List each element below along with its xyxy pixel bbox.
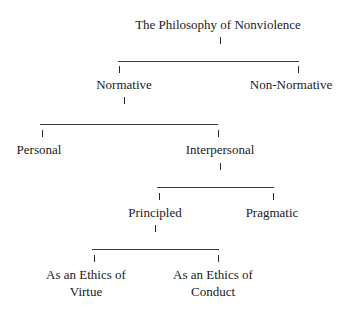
connector-tick <box>119 66 120 73</box>
node-non-normative: Non-Normative <box>250 76 332 93</box>
node-ethics-of-virtue: As an Ethics of Virtue <box>46 266 126 300</box>
connector-tick <box>155 225 156 232</box>
connector-tick <box>159 193 160 200</box>
connector-tick <box>220 163 221 170</box>
connector-tick <box>124 97 125 104</box>
root-node-title: The Philosophy of Nonviolence <box>135 16 301 33</box>
node-ethics-of-virtue-line2: Virtue <box>46 283 126 300</box>
connector-tick <box>42 130 43 137</box>
connector-tick <box>273 193 274 200</box>
node-principled: Principled <box>128 204 181 221</box>
node-ethics-of-conduct: As an Ethics of Conduct <box>173 266 253 300</box>
branch-line-principled <box>92 249 219 250</box>
node-personal: Personal <box>17 141 62 158</box>
node-interpersonal: Interpersonal <box>186 141 255 158</box>
branch-line-normative <box>40 124 218 125</box>
branch-line-root <box>118 61 299 62</box>
node-ethics-of-conduct-line1: As an Ethics of <box>173 266 253 283</box>
node-pragmatic: Pragmatic <box>246 204 299 221</box>
connector-tick <box>220 37 221 44</box>
branch-line-interpersonal <box>157 187 274 188</box>
connector-tick <box>218 255 219 262</box>
connector-tick <box>218 130 219 137</box>
node-ethics-of-conduct-line2: Conduct <box>173 283 253 300</box>
tree-diagram: The Philosophy of Nonviolence Normative … <box>0 0 340 316</box>
node-normative: Normative <box>96 76 152 93</box>
connector-tick <box>298 66 299 73</box>
node-ethics-of-virtue-line1: As an Ethics of <box>46 266 126 283</box>
connector-tick <box>94 255 95 262</box>
